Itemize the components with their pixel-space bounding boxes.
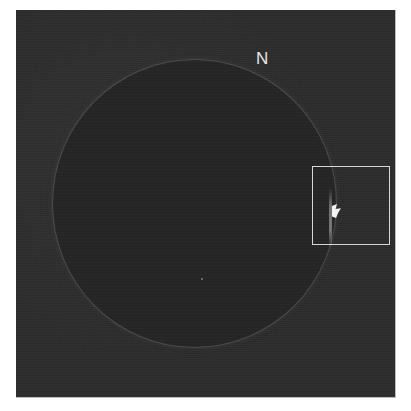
disk-spot xyxy=(201,278,203,280)
region-of-interest-box xyxy=(312,166,390,245)
solar-disk xyxy=(53,60,336,347)
north-label: N xyxy=(256,50,268,67)
solar-image-panel: N xyxy=(16,10,396,398)
